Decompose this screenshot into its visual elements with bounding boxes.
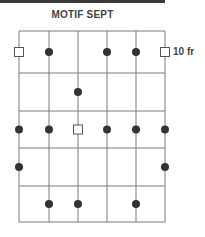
finger-dot-icon bbox=[103, 48, 111, 56]
finger-dot-icon bbox=[132, 200, 140, 208]
chord-grid bbox=[0, 0, 205, 237]
finger-dot-icon bbox=[15, 126, 23, 134]
finger-dot-icon bbox=[103, 126, 111, 134]
finger-dot-icon bbox=[132, 48, 140, 56]
finger-dot-icon bbox=[161, 126, 169, 134]
finger-dot-icon bbox=[15, 163, 23, 171]
finger-dot-icon bbox=[161, 163, 169, 171]
finger-dot-icon bbox=[45, 48, 53, 56]
root-square-icon bbox=[15, 48, 24, 57]
fret-position-label: 10 fr bbox=[173, 46, 194, 57]
finger-dot-icon bbox=[45, 200, 53, 208]
root-square-icon bbox=[74, 125, 83, 134]
finger-dot-icon bbox=[45, 126, 53, 134]
finger-dot-icon bbox=[132, 126, 140, 134]
finger-dot-icon bbox=[74, 88, 82, 96]
root-square-icon bbox=[161, 48, 170, 57]
finger-dot-icon bbox=[74, 200, 82, 208]
